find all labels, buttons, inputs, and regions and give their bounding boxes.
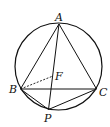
segment-cp <box>49 89 97 110</box>
geometry-diagram: A B C P F <box>0 0 110 127</box>
label-a: A <box>54 11 63 24</box>
label-b: B <box>8 83 17 96</box>
segment-ap <box>49 24 60 110</box>
circumcircle <box>15 23 102 110</box>
label-p: P <box>43 112 52 125</box>
label-c: C <box>99 86 108 99</box>
segment-ab <box>21 24 60 89</box>
segment-ac <box>59 24 97 89</box>
segment-bp <box>21 89 49 110</box>
segment-bf-dashed <box>21 76 54 89</box>
label-f: F <box>54 70 63 83</box>
